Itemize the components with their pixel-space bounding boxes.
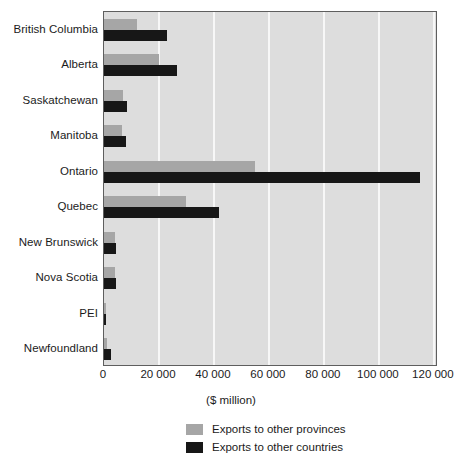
bar-ontario-provinces [104,161,255,172]
category-axis: British ColumbiaAlbertaSaskatchewanManit… [0,11,98,366]
x-tick-label-40000: 40 000 [195,368,230,381]
gridline-120000 [433,12,435,365]
x-tick-label-0: 0 [100,368,106,381]
legend-item-1: Exports to other provinces [186,421,436,438]
category-label-pei: PEI [0,307,98,319]
x-axis-title: ($ million) [0,394,462,406]
bar-pei-countries [104,314,106,325]
bar-manitoba-countries [104,136,126,147]
gridline-40000 [213,12,215,365]
category-label-ontario: Ontario [0,165,98,177]
bar-newfoundland-countries [104,349,111,360]
x-tick-label-60000: 60 000 [250,368,285,381]
category-label-manitoba: Manitoba [0,129,98,141]
bar-alberta-countries [104,65,177,76]
chart-legend: Exports to other provincesExports to oth… [186,421,436,457]
bar-nova-scotia-countries [104,278,116,289]
x-axis: 020 00040 00060 00080 000100 000120 000 [0,368,462,388]
legend-swatch-icon-ctry [186,442,203,453]
x-tick-label-20000: 20 000 [140,368,175,381]
legend-swatch-icon-prov [186,424,203,435]
gridline-100000 [378,12,380,365]
gridline-80000 [323,12,325,365]
bar-british-columbia-provinces [104,19,137,30]
x-tick-label-80000: 80 000 [305,368,340,381]
category-label-alberta: Alberta [0,58,98,70]
category-label-new-brunswick: New Brunswick [0,236,98,248]
bar-nova-scotia-provinces [104,267,115,278]
bar-pei-provinces [104,303,106,314]
x-tick-label-120000: 120 000 [412,368,454,381]
bar-new-brunswick-provinces [104,232,115,243]
bar-ontario-countries [104,172,420,183]
bar-chart: British ColumbiaAlbertaSaskatchewanManit… [0,0,462,471]
legend-label: Exports to other countries [212,441,343,454]
bar-quebec-provinces [104,196,186,207]
x-tick-label-100000: 100 000 [357,368,399,381]
plot-area [103,11,437,366]
bar-british-columbia-countries [104,30,167,41]
category-label-nova-scotia: Nova Scotia [0,271,98,283]
category-label-saskatchewan: Saskatchewan [0,94,98,106]
bar-saskatchewan-provinces [104,90,123,101]
bar-saskatchewan-countries [104,101,127,112]
bar-quebec-countries [104,207,219,218]
category-label-british-columbia: British Columbia [0,23,98,35]
category-label-newfoundland: Newfoundland [0,342,98,354]
bar-newfoundland-provinces [104,338,107,349]
category-label-quebec: Quebec [0,200,98,212]
legend-item-2: Exports to other countries [186,439,436,456]
gridline-60000 [268,12,270,365]
bar-manitoba-provinces [104,125,122,136]
bar-new-brunswick-countries [104,243,116,254]
bar-alberta-provinces [104,54,159,65]
legend-label: Exports to other provinces [212,423,346,436]
